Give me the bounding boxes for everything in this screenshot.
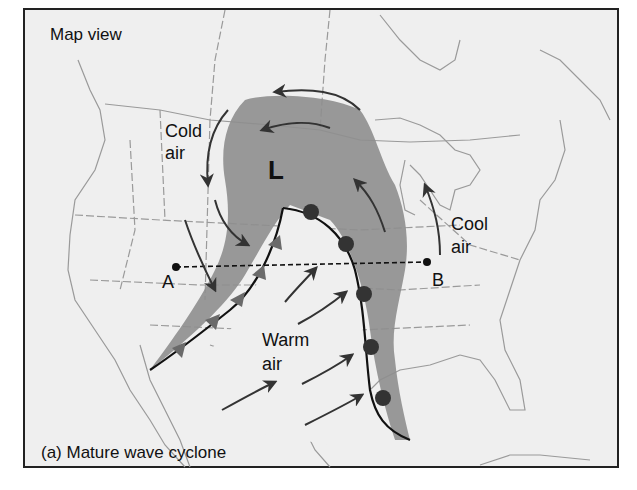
point-b [423, 258, 431, 266]
point-b-label: B [432, 270, 444, 290]
cool-air-label-1: Cool [451, 214, 488, 234]
low-pressure-symbol: L [268, 160, 284, 180]
warm-air-label-2: air [262, 354, 282, 374]
map-title: Map view [50, 25, 122, 45]
cold-air-label-1: Cold [165, 121, 202, 141]
map-canvas [0, 0, 637, 490]
cold-air-label-2: air [165, 143, 185, 163]
warm-air-label-1: Warm [262, 330, 309, 350]
cool-air-label-2: air [451, 237, 471, 257]
weather-map-figure: Map view Cold air L Cool air Warm air A … [0, 0, 637, 490]
point-a [172, 263, 180, 271]
point-a-label: A [162, 272, 174, 292]
figure-caption: (a) Mature wave cyclone [41, 443, 226, 463]
